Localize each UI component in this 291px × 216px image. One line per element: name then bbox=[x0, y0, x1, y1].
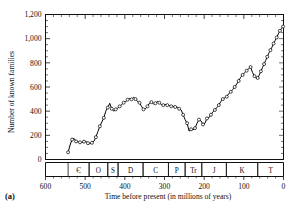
x-tick-label: 400 bbox=[119, 182, 131, 191]
data-point bbox=[275, 36, 278, 39]
panel-label: (a) bbox=[5, 191, 15, 201]
period-label-carboniferous: C bbox=[153, 167, 158, 175]
data-point bbox=[67, 151, 70, 154]
data-point bbox=[114, 108, 117, 111]
data-point bbox=[170, 105, 173, 108]
data-point bbox=[259, 70, 262, 73]
plot-frame bbox=[46, 15, 284, 160]
period-label-tertiary: T bbox=[268, 167, 273, 175]
data-point bbox=[122, 101, 125, 104]
data-point bbox=[118, 105, 121, 108]
data-point bbox=[106, 106, 109, 109]
data-point bbox=[198, 118, 201, 121]
y-tick-label: 400 bbox=[30, 107, 42, 116]
data-point bbox=[126, 98, 129, 101]
data-point bbox=[75, 140, 78, 143]
data-point bbox=[253, 75, 256, 78]
data-point-markers bbox=[67, 25, 285, 154]
period-label-cambrian: Є bbox=[76, 167, 81, 175]
period-label-cretaceous: K bbox=[239, 167, 245, 175]
data-point bbox=[263, 63, 266, 66]
y-tick-label: 1,000 bbox=[24, 34, 41, 43]
data-point bbox=[209, 113, 212, 116]
x-axis-tick-labels: 6005004003002001000 bbox=[40, 182, 286, 191]
period-label-jurassic: J bbox=[213, 167, 216, 175]
x-tick-label: 100 bbox=[238, 182, 250, 191]
period-label-triassic: Tr bbox=[190, 167, 197, 175]
data-point bbox=[233, 86, 236, 89]
data-point bbox=[278, 29, 281, 32]
x-tick-label: 200 bbox=[198, 182, 210, 191]
data-point bbox=[166, 104, 169, 107]
data-point bbox=[79, 141, 82, 144]
data-point bbox=[71, 138, 74, 141]
data-point bbox=[110, 107, 113, 110]
data-point bbox=[98, 125, 101, 128]
data-point bbox=[249, 66, 252, 69]
data-point bbox=[186, 122, 189, 125]
data-point bbox=[213, 108, 216, 111]
data-point bbox=[174, 105, 177, 108]
axis-ticks bbox=[46, 15, 284, 181]
y-tick-label: 1,200 bbox=[24, 10, 41, 19]
data-point bbox=[217, 104, 220, 107]
data-point bbox=[138, 101, 141, 104]
data-point bbox=[245, 69, 248, 72]
data-point bbox=[134, 98, 137, 101]
period-label-silurian: S bbox=[111, 167, 115, 175]
data-point bbox=[94, 136, 97, 139]
data-point bbox=[201, 123, 204, 126]
data-point bbox=[182, 113, 185, 116]
period-label-devonian: D bbox=[128, 167, 133, 175]
y-tick-label: 200 bbox=[30, 131, 42, 140]
x-tick-label: 300 bbox=[159, 182, 171, 191]
data-point bbox=[90, 141, 93, 144]
data-point bbox=[272, 42, 275, 45]
diversity-line-chart: 02004006008001,0001,200 6005004003002001… bbox=[0, 0, 291, 216]
data-point bbox=[256, 76, 259, 79]
data-point bbox=[269, 49, 272, 52]
data-point bbox=[205, 117, 208, 120]
y-tick-label: 800 bbox=[30, 59, 42, 68]
x-tick-label: 600 bbox=[40, 182, 52, 191]
y-tick-label: 600 bbox=[30, 83, 42, 92]
data-point bbox=[178, 107, 181, 110]
data-point bbox=[241, 73, 244, 76]
x-tick-label: 0 bbox=[282, 182, 286, 191]
period-label-permian: P bbox=[175, 167, 179, 175]
data-point bbox=[190, 128, 193, 131]
data-point bbox=[237, 79, 240, 82]
y-axis-title: Number of known families bbox=[7, 51, 16, 133]
data-point bbox=[162, 104, 165, 107]
x-axis-title: Time before present (in millions of year… bbox=[105, 192, 232, 201]
data-point bbox=[221, 98, 224, 101]
data-point bbox=[266, 55, 269, 58]
data-point bbox=[158, 101, 161, 104]
data-point bbox=[225, 95, 228, 98]
data-point bbox=[229, 90, 232, 93]
geologic-period-band: ЄOSDCPTrJKT bbox=[46, 163, 284, 177]
data-point bbox=[194, 127, 197, 130]
x-tick-label: 500 bbox=[79, 182, 91, 191]
data-point bbox=[282, 25, 285, 28]
data-point bbox=[154, 102, 157, 105]
data-point bbox=[150, 101, 153, 104]
data-point bbox=[130, 98, 133, 101]
y-tick-label: 0 bbox=[38, 155, 42, 164]
diversity-curve bbox=[68, 27, 283, 153]
data-point bbox=[146, 105, 149, 108]
figure-panel: 02004006008001,0001,200 6005004003002001… bbox=[0, 0, 291, 216]
data-point bbox=[102, 116, 105, 119]
data-point bbox=[86, 142, 89, 145]
period-label-ordovician: O bbox=[96, 167, 101, 175]
data-point bbox=[82, 140, 85, 143]
y-axis-tick-labels: 02004006008001,0001,200 bbox=[24, 10, 41, 164]
data-point bbox=[142, 108, 145, 111]
